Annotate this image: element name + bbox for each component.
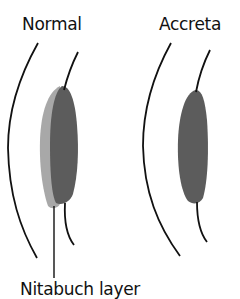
accreta-placenta-dark [178,90,208,203]
normal-inner-wall-top [64,52,78,90]
accreta-inner-wall-top [196,50,210,92]
pointer-label: Nitabuch layer [20,279,140,299]
accreta-outer-wall [143,43,180,256]
normal-outer-wall [8,43,38,258]
normal-label: Normal [22,14,82,34]
normal-panel [8,43,78,278]
normal-inner-wall-bottom [65,203,74,245]
accreta-panel [143,43,210,256]
normal-placenta-dark [50,86,78,204]
accreta-label: Accreta [159,14,221,34]
accreta-inner-wall-bottom [197,202,207,242]
